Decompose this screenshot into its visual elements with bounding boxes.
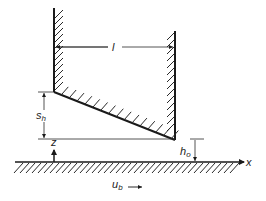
left-wall [54, 8, 63, 92]
hatch-stroke [85, 96, 92, 104]
step-height-dimension: sh [36, 92, 54, 138]
hatch-stroke [167, 103, 174, 110]
right-wall-hatching [167, 33, 174, 131]
hatch-stroke [101, 102, 108, 110]
hatch-stroke [167, 54, 174, 61]
hatch-stroke [132, 115, 139, 123]
z-axis-label: z [50, 136, 57, 148]
hatch-stroke [167, 75, 174, 82]
hatch-stroke [167, 47, 174, 54]
hatch-stroke [124, 112, 131, 120]
hatch-stroke [148, 121, 155, 129]
hatch-stroke [167, 96, 174, 103]
slider-bearing-diagram: l sh ho z x ub [0, 0, 266, 201]
length-label: l [112, 41, 115, 53]
ground-surface: x [14, 156, 252, 173]
hatch-stroke [164, 127, 171, 135]
hatch-stroke [167, 82, 174, 89]
hatch-stroke [116, 109, 123, 117]
hatch-stroke [140, 118, 147, 126]
slanted-pad-surface [54, 87, 178, 140]
hatch-stroke [167, 61, 174, 68]
hatch-stroke [108, 106, 115, 114]
min-film-label: ho [180, 145, 191, 159]
velocity-indicator: ub [112, 178, 142, 192]
left-wall-hatching [55, 10, 63, 90]
hatch-stroke [61, 87, 68, 95]
hatch-stroke [167, 33, 174, 40]
length-dimension: l [56, 41, 173, 53]
x-axis-label: x [245, 156, 252, 168]
hatch-stroke [77, 93, 84, 101]
hatch-stroke [167, 110, 174, 117]
velocity-label: ub [112, 178, 123, 192]
ground-hatching [14, 163, 239, 173]
hatch-stroke [156, 124, 163, 132]
hatch-stroke [167, 117, 174, 124]
min-film-dimension: ho [180, 139, 204, 161]
hatch-stroke [167, 40, 174, 47]
hatch-stroke [69, 90, 76, 98]
z-axis: z [50, 136, 57, 162]
step-height-label: sh [36, 109, 47, 123]
slanted-surface-hatching [61, 87, 178, 139]
hatch-stroke [167, 89, 174, 96]
hatch-stroke [167, 68, 174, 75]
hatch-stroke [93, 99, 100, 107]
